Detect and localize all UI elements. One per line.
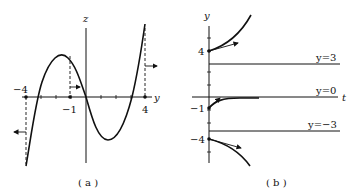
a-caption: ( a ) <box>78 177 98 188</box>
b-tick-4: 4 <box>198 46 204 57</box>
a-y-label: y <box>153 92 160 103</box>
a-z-label: z <box>82 13 89 24</box>
a-tick-4: 4 <box>142 104 148 115</box>
b-label-y0: y=0 <box>315 85 336 96</box>
b-caption: ( b ) <box>266 177 287 188</box>
b-t-label: t <box>342 92 347 103</box>
b-label-yneg3: y=−3 <box>307 119 337 130</box>
b-curve-from-neg4 <box>209 139 250 166</box>
b-label-y3: y=3 <box>315 52 336 63</box>
b-y-label: y <box>203 10 210 21</box>
b-tick-neg1: −1 <box>190 103 205 114</box>
panel-b: y t 4 −1 −4 y=3 y=0 y=−3 ( b ) <box>190 10 347 188</box>
b-tangent-neg4-icon <box>209 139 241 148</box>
b-tick-neg4: −4 <box>190 134 205 145</box>
a-tick-neg1: −1 <box>62 104 77 115</box>
b-tangent-neg1-icon <box>209 98 220 108</box>
figure: z y −4 −1 4 ( a ) y t <box>0 0 357 195</box>
a-tick-neg4: −4 <box>13 84 28 95</box>
b-curve-from-neg1 <box>209 98 259 108</box>
panel-a: z y −4 −1 4 ( a ) <box>13 13 160 188</box>
